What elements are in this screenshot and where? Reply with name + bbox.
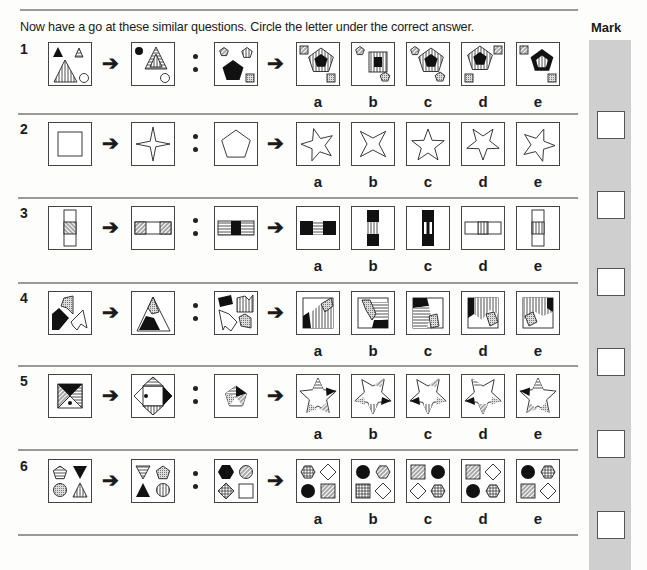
example-figure-left-graphic (49, 43, 91, 85)
example-figure-right-graphic (132, 123, 174, 165)
answer-letter-c[interactable]: c (406, 93, 450, 110)
answer-letter-b[interactable]: b (351, 93, 395, 110)
question-number: 4 (20, 290, 28, 306)
answer-option-d-graphic (462, 375, 504, 417)
answer-letter-d[interactable]: d (461, 93, 505, 110)
prompt-figure-graphic (215, 43, 257, 85)
answer-option-b (351, 206, 395, 250)
answer-option-b-graphic (352, 460, 394, 502)
answer-letter-b[interactable]: b (351, 257, 395, 274)
answer-option-a-graphic (297, 123, 339, 165)
answer-letter-e[interactable]: e (516, 173, 560, 190)
prompt-figure (214, 291, 258, 335)
answer-letter-b[interactable]: b (351, 510, 395, 527)
answer-letter-a[interactable]: a (296, 342, 340, 359)
answer-option-e (516, 459, 560, 503)
answer-option-d-graphic (462, 43, 504, 85)
example-figure-left-graphic (49, 375, 91, 417)
answer-option-b (351, 291, 395, 335)
answer-option-d (461, 206, 505, 250)
mark-box[interactable] (597, 430, 625, 458)
row-divider (18, 113, 578, 115)
mark-box[interactable] (597, 348, 625, 376)
example-figure-left-graphic (49, 123, 91, 165)
answer-option-e (516, 42, 560, 86)
answer-option-b (351, 122, 395, 166)
mark-box[interactable] (597, 111, 625, 139)
answer-letter-b[interactable]: b (351, 342, 395, 359)
row-divider (18, 282, 578, 284)
example-figure-right-graphic (132, 43, 174, 85)
arrow-right-icon: ➔ (102, 53, 119, 73)
prompt-figure (214, 42, 258, 86)
answer-option-c (406, 374, 450, 418)
example-figure-left (48, 206, 92, 250)
answer-letter-a[interactable]: a (296, 93, 340, 110)
arrow-right-icon: ➔ (267, 217, 284, 237)
answer-option-b (351, 374, 395, 418)
answer-letter-a[interactable]: a (296, 425, 340, 442)
arrow-right-icon: ➔ (102, 302, 119, 322)
example-figure-right (131, 122, 175, 166)
answer-option-b-graphic (352, 207, 394, 249)
answer-letter-e[interactable]: e (516, 93, 560, 110)
question-number: 1 (20, 41, 28, 57)
arrow-right-icon: ➔ (267, 385, 284, 405)
example-figure-left-graphic (49, 460, 91, 502)
answer-letter-d[interactable]: d (461, 173, 505, 190)
answer-letter-b[interactable]: b (351, 425, 395, 442)
answer-letter-a[interactable]: a (296, 510, 340, 527)
example-figure-right-graphic (132, 207, 174, 249)
answer-option-c (406, 206, 450, 250)
answer-letter-d[interactable]: d (461, 425, 505, 442)
answer-option-d-graphic (462, 292, 504, 334)
mark-box[interactable] (597, 268, 625, 296)
answer-option-d (461, 122, 505, 166)
answer-letter-a[interactable]: a (296, 173, 340, 190)
answer-option-d-graphic (462, 460, 504, 502)
example-figure-left (48, 291, 92, 335)
answer-option-e-graphic (517, 292, 559, 334)
answer-letter-c[interactable]: c (406, 173, 450, 190)
prompt-figure-graphic (215, 460, 257, 502)
answer-option-c-graphic (407, 375, 449, 417)
answer-option-a (296, 122, 340, 166)
answer-option-e-graphic (517, 123, 559, 165)
answer-letter-e[interactable]: e (516, 342, 560, 359)
answer-option-e-graphic (517, 375, 559, 417)
arrow-right-icon: ➔ (102, 133, 119, 153)
colon-separator (193, 471, 199, 497)
answer-option-c (406, 122, 450, 166)
answer-letter-c[interactable]: c (406, 342, 450, 359)
instruction-text: Now have a go at these similar questions… (20, 20, 474, 34)
row-divider (18, 197, 578, 199)
answer-letter-c[interactable]: c (406, 257, 450, 274)
answer-letter-d[interactable]: d (461, 510, 505, 527)
answer-letter-d[interactable]: d (461, 342, 505, 359)
answer-option-c-graphic (407, 207, 449, 249)
example-figure-right (131, 206, 175, 250)
mark-box[interactable] (597, 191, 625, 219)
prompt-figure-graphic (215, 292, 257, 334)
answer-letter-e[interactable]: e (516, 257, 560, 274)
bottom-rule (18, 534, 578, 536)
answer-letter-a[interactable]: a (296, 257, 340, 274)
arrow-right-icon: ➔ (267, 53, 284, 73)
answer-letter-e[interactable]: e (516, 425, 560, 442)
answer-letter-c[interactable]: c (406, 425, 450, 442)
mark-box[interactable] (597, 511, 625, 539)
example-figure-right (131, 374, 175, 418)
answer-letter-e[interactable]: e (516, 510, 560, 527)
answer-letter-d[interactable]: d (461, 257, 505, 274)
answer-option-e (516, 374, 560, 418)
answer-option-b (351, 42, 395, 86)
answer-option-c-graphic (407, 43, 449, 85)
answer-option-b-graphic (352, 43, 394, 85)
answer-letter-b[interactable]: b (351, 173, 395, 190)
answer-option-b-graphic (352, 292, 394, 334)
question-number: 5 (20, 373, 28, 389)
arrow-right-icon: ➔ (267, 133, 284, 153)
example-figure-right-graphic (132, 292, 174, 334)
answer-letter-c[interactable]: c (406, 510, 450, 527)
arrow-right-icon: ➔ (102, 385, 119, 405)
